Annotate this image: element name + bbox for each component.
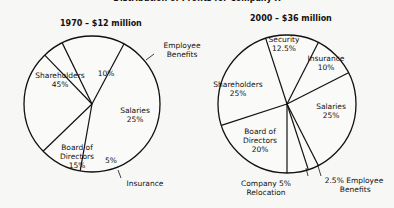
callout-company-relocation: Company 5%Relocation xyxy=(241,179,291,197)
slice-label-security: Security12.5% xyxy=(269,35,300,53)
pie-2000: Security12.5%Insurance10%Salaries25%Shar… xyxy=(213,35,383,197)
slice-label-employee-benefits: 10% xyxy=(98,69,115,78)
pie-1970: Shareholders45%10%EmployeeBenefitsSalari… xyxy=(24,36,201,188)
slice-label-insurance: 5% xyxy=(105,156,117,165)
callout-employee-benefits: 2.5% Employee Benefits xyxy=(325,176,384,194)
callout-employee-benefits: EmployeeBenefits xyxy=(163,41,201,59)
callout-insurance: Insurance xyxy=(127,179,164,188)
pie-charts: Shareholders45%10%EmployeeBenefitsSalari… xyxy=(0,0,394,208)
